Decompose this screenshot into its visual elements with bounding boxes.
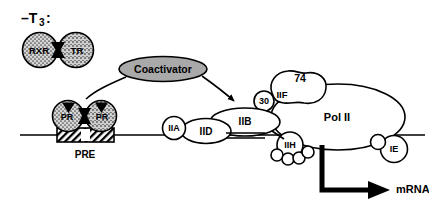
pr-label-right: PR <box>96 112 109 122</box>
pathway-diagram: –T 3 : RXR TR Coactivator PRE PR <box>0 0 429 216</box>
tfiia-group: IIA <box>163 117 186 140</box>
pre-element: PRE <box>57 128 114 160</box>
iia-label: IIA <box>168 123 180 133</box>
mrna-arrow-head <box>368 181 390 199</box>
tfie-group: IE <box>371 135 408 163</box>
pre-label: PRE <box>75 149 96 160</box>
coactivator-link-left <box>86 77 126 99</box>
pr-pr-homodimer: PR PR <box>53 101 117 132</box>
iih-subunit-1 <box>271 149 283 161</box>
tr-label: TR <box>71 45 84 56</box>
mrna-label: mRNA <box>396 183 429 195</box>
mrna-arrow-group: mRNA <box>322 145 429 199</box>
subunit-74-label: 74 <box>294 72 306 84</box>
coactivator-group: Coactivator <box>86 57 234 102</box>
condition-label: –T 3 : <box>21 10 51 28</box>
iif-label: IIF <box>276 89 287 100</box>
ie-label: IE <box>390 144 399 154</box>
iib-label: IIB <box>239 116 252 127</box>
condition-label-subscript: 3 <box>39 17 45 28</box>
coactivator-label: Coactivator <box>134 63 192 75</box>
figure-canvas: –T 3 : RXR TR Coactivator PRE PR <box>0 0 429 216</box>
ie-subunit <box>371 135 386 150</box>
pre-box-gap <box>81 129 90 141</box>
pol-ii-label: Pol II <box>324 111 350 123</box>
tfiid-group: IID <box>181 119 231 144</box>
rxr-tr-heterodimer: RXR TR <box>23 33 94 68</box>
mrna-arrow-stem <box>322 145 372 190</box>
condition-label-colon: : <box>46 10 51 26</box>
condition-label-text: –T <box>21 10 38 26</box>
iih-label: IIH <box>284 140 296 150</box>
subunit-30-label: 30 <box>259 96 269 106</box>
rxr-label: RXR <box>29 45 49 56</box>
pr-label-left: PR <box>61 112 74 122</box>
coactivator-arrow-right <box>202 76 234 101</box>
iih-subunit-2 <box>282 153 294 165</box>
iih-subunit-4 <box>302 146 314 158</box>
iid-label: IID <box>200 126 213 137</box>
